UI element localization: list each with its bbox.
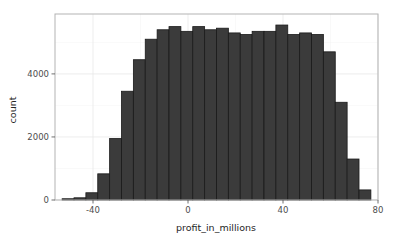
histogram-bar [228,33,240,200]
histogram-bar [347,159,359,200]
histogram-bar [98,174,110,200]
histogram-bar [181,31,193,200]
y-tick-label: 2000 [27,132,49,142]
histogram-bar [122,91,134,200]
histogram-bar [335,102,347,200]
histogram-bar [300,33,312,200]
y-axis-title: count [7,96,18,123]
y-tick-label: 0 [44,195,49,205]
x-tick-label: 0 [185,205,190,215]
x-tick-label: -40 [86,205,100,215]
histogram-bar [86,193,98,200]
x-axis-title: profit_in_millions [176,222,256,233]
histogram-bar [276,25,288,200]
chart-figure: -4004080 020004000 profit_in_millions co… [0,0,401,239]
histogram-bar [264,31,276,200]
histogram-bar [312,34,324,200]
histogram-bar [240,34,252,200]
histogram-bar [169,27,181,200]
histogram-bar [133,60,145,200]
histogram-bar [323,52,335,200]
y-tick-label: 4000 [27,69,49,79]
histogram-bar [110,139,122,200]
histogram-bar [205,30,217,200]
histogram-bar [217,28,229,200]
histogram-bar [359,190,371,200]
histogram-bar [157,30,169,200]
x-tick-label: 40 [278,205,289,215]
histogram-bar [252,31,264,200]
histogram-bar [288,34,300,200]
histogram-bar [145,39,157,200]
histogram-plot: -4004080 020004000 profit_in_millions co… [0,0,401,239]
x-tick-label: 80 [373,205,384,215]
histogram-bar [193,27,205,200]
